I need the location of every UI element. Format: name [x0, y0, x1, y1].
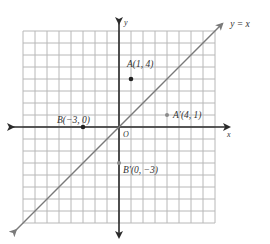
point-a-prime	[165, 113, 169, 117]
point-b	[81, 125, 86, 130]
point-label-a-prime: A′(4, 1)	[172, 110, 201, 121]
line-label: y = x	[229, 19, 250, 29]
point-a	[129, 77, 134, 82]
coordinate-plane: x y O y = x A(1, 4)B(−3, 0)A′(4, 1)B′(0,…	[0, 0, 270, 244]
point-label-a: A(1, 4)	[126, 59, 153, 70]
y-axis-label: y	[123, 18, 128, 27]
point-label-b: B(−3, 0)	[57, 115, 90, 126]
origin-label: O	[123, 130, 129, 139]
point-label-b-prime: B′(0, −3)	[123, 165, 158, 176]
x-axis-label: x	[226, 130, 231, 139]
point-b-prime	[117, 161, 121, 165]
